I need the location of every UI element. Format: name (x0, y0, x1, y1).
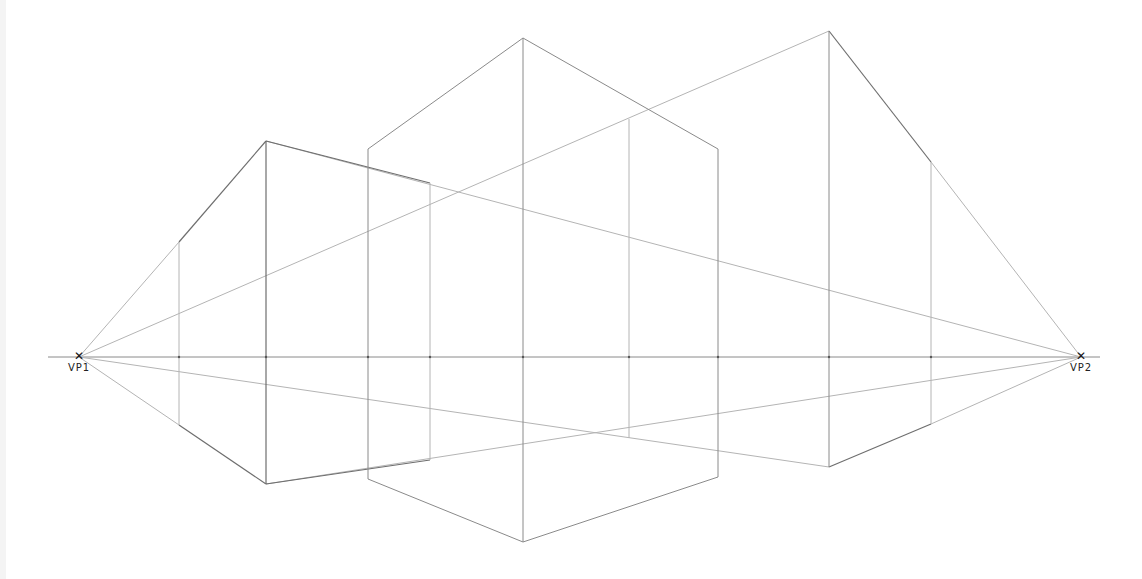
center-box-bottom-left-edge (368, 479, 523, 542)
horizon-tick (717, 356, 719, 358)
perspective-diagram (0, 0, 1142, 579)
vp2-marker-icon: ✕ (1076, 350, 1086, 362)
horizon-tick (265, 356, 267, 358)
vp1-to-right-box-top (79, 31, 829, 357)
horizon-tick (429, 356, 431, 358)
vp1-to-left-box-left-bottom (79, 357, 179, 425)
vp2-to-left-box-bottom (266, 357, 1081, 484)
vp1-label: VP1 (68, 362, 90, 373)
center-box-top-left-edge (368, 38, 523, 149)
vp1-to-right-box-bottom (79, 357, 829, 467)
left-box-top-left-edge (179, 141, 266, 242)
horizon-tick (930, 356, 932, 358)
vp2-to-left-box-top (266, 141, 1081, 357)
vp1-to-left-box-left-top (79, 242, 179, 357)
left-box-bottom-right-edge (266, 460, 430, 484)
horizon-tick (178, 356, 180, 358)
vp2-label: VP2 (1070, 362, 1092, 373)
right-box-bottom-right-edge (829, 424, 931, 467)
left-box-bottom-left-edge (179, 425, 266, 484)
vp1-marker-icon: ✕ (74, 350, 84, 362)
horizon-tick (828, 356, 830, 358)
horizon-tick (628, 356, 630, 358)
right-box-bottom-to-vp2 (931, 357, 1081, 424)
left-box-top-right-edge (266, 141, 430, 183)
right-box-top-to-vp2 (931, 162, 1081, 357)
right-box-top-right-edge (829, 31, 931, 162)
center-box-top-right-edge (523, 38, 718, 149)
horizon-tick (367, 356, 369, 358)
horizon-tick (522, 356, 524, 358)
center-box-bottom-right-edge (523, 477, 718, 542)
